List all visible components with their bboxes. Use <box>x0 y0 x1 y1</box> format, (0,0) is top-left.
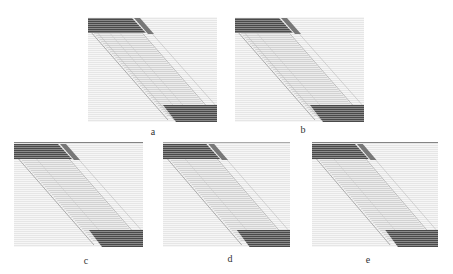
panel-b <box>235 17 364 122</box>
panel-label-e: e <box>366 254 370 265</box>
panel-a <box>88 17 217 122</box>
panel-label-c: c <box>84 255 88 266</box>
panel-label-d: d <box>228 253 233 264</box>
panel-d <box>163 142 290 247</box>
banded-matrix-graphic <box>312 142 438 247</box>
panel-label-a: a <box>151 126 155 137</box>
panel-c <box>14 142 143 247</box>
banded-matrix-graphic <box>88 17 217 122</box>
banded-matrix-graphic <box>235 17 364 122</box>
panel-label-b: b <box>301 124 306 135</box>
banded-matrix-graphic <box>163 142 290 247</box>
banded-matrix-graphic <box>14 142 143 247</box>
panel-e <box>312 142 438 247</box>
